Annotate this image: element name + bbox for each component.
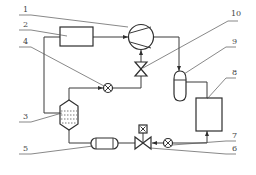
separator-3 (60, 100, 78, 130)
label-1: 1 (23, 5, 28, 14)
pipe-9-to-8 (186, 82, 207, 98)
pipe-4-to-10 (113, 76, 141, 88)
leader-6 (150, 148, 236, 154)
sight-glass-7 (164, 139, 173, 148)
label-8: 8 (232, 68, 237, 77)
valve-10 (135, 62, 147, 76)
label-7: 7 (232, 131, 237, 140)
solenoid-valve-6 (135, 125, 151, 149)
compressor-1 (129, 25, 154, 50)
unit-8-box (196, 98, 222, 131)
unit-2-box (60, 27, 93, 46)
leader-1 (19, 15, 128, 27)
leader-3-4 (19, 47, 104, 86)
sight-glass-4 (104, 84, 113, 93)
vessel-9 (174, 71, 186, 101)
label-9: 9 (232, 37, 237, 46)
label-3: 3 (23, 112, 28, 121)
label-2: 2 (23, 20, 28, 29)
label-6: 6 (232, 144, 237, 153)
pipe-1-to-9 (153, 37, 179, 71)
leader-5 (19, 146, 93, 154)
schematic-diagram: 1 2 4 3 5 10 9 8 7 6 (0, 0, 256, 175)
pipe-3-to-5 (69, 130, 91, 143)
receiver-5 (91, 138, 118, 149)
pipe-2-to-3 (44, 37, 66, 113)
label-10: 10 (231, 9, 241, 18)
pipe-7-to-8 (173, 131, 207, 143)
label-5: 5 (23, 144, 28, 153)
label-4: 4 (23, 37, 28, 46)
leader-9 (184, 47, 236, 74)
pipe-3-to-4 (69, 88, 103, 100)
leader-10 (143, 21, 238, 68)
leader-8 (207, 78, 236, 99)
